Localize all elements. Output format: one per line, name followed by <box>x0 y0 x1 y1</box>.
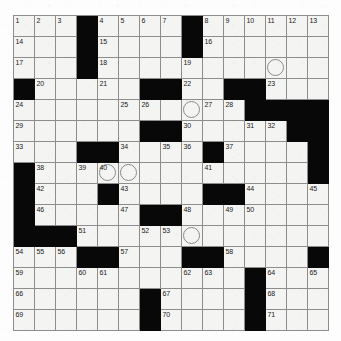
letter-cell[interactable]: 47 <box>119 205 140 226</box>
letter-cell[interactable]: 66 <box>14 289 35 310</box>
letter-cell[interactable] <box>308 226 329 247</box>
letter-cell[interactable]: 50 <box>245 205 266 226</box>
letter-cell[interactable]: 24 <box>14 100 35 121</box>
letter-cell[interactable]: 69 <box>14 310 35 331</box>
letter-cell[interactable]: 13 <box>308 16 329 37</box>
letter-cell[interactable] <box>182 310 203 331</box>
letter-cell[interactable]: 43 <box>119 184 140 205</box>
letter-cell[interactable] <box>287 58 308 79</box>
letter-cell[interactable]: 35 <box>161 142 182 163</box>
letter-cell[interactable]: 67 <box>161 289 182 310</box>
letter-cell[interactable]: 68 <box>266 289 287 310</box>
letter-cell[interactable] <box>203 226 224 247</box>
letter-cell[interactable] <box>35 100 56 121</box>
letter-cell[interactable]: 33 <box>14 142 35 163</box>
letter-cell[interactable] <box>98 121 119 142</box>
letter-cell[interactable] <box>119 226 140 247</box>
letter-cell[interactable] <box>119 289 140 310</box>
letter-cell[interactable] <box>56 163 77 184</box>
letter-cell[interactable]: 56 <box>56 247 77 268</box>
letter-cell[interactable]: 5 <box>119 16 140 37</box>
letter-cell[interactable] <box>140 37 161 58</box>
letter-cell[interactable] <box>224 268 245 289</box>
letter-cell[interactable] <box>56 310 77 331</box>
letter-cell[interactable] <box>182 226 203 247</box>
letter-cell[interactable] <box>56 37 77 58</box>
letter-cell[interactable] <box>35 289 56 310</box>
letter-cell[interactable] <box>119 310 140 331</box>
letter-cell[interactable]: 34 <box>119 142 140 163</box>
letter-cell[interactable] <box>182 100 203 121</box>
letter-cell[interactable]: 31 <box>245 121 266 142</box>
letter-cell[interactable]: 40 <box>98 163 119 184</box>
letter-cell[interactable] <box>287 226 308 247</box>
letter-cell[interactable] <box>35 58 56 79</box>
letter-cell[interactable] <box>203 58 224 79</box>
letter-cell[interactable] <box>203 79 224 100</box>
letter-cell[interactable]: 2 <box>35 16 56 37</box>
letter-cell[interactable]: 61 <box>98 268 119 289</box>
letter-cell[interactable] <box>161 184 182 205</box>
letter-cell[interactable] <box>56 100 77 121</box>
letter-cell[interactable] <box>287 205 308 226</box>
letter-cell[interactable] <box>77 100 98 121</box>
letter-cell[interactable] <box>77 184 98 205</box>
letter-cell[interactable] <box>140 184 161 205</box>
letter-cell[interactable]: 28 <box>224 100 245 121</box>
letter-cell[interactable]: 15 <box>98 37 119 58</box>
letter-cell[interactable]: 45 <box>308 184 329 205</box>
letter-cell[interactable] <box>56 184 77 205</box>
letter-cell[interactable]: 11 <box>266 16 287 37</box>
letter-cell[interactable] <box>287 184 308 205</box>
letter-cell[interactable] <box>203 310 224 331</box>
letter-cell[interactable] <box>245 142 266 163</box>
letter-cell[interactable] <box>224 310 245 331</box>
letter-cell[interactable]: 48 <box>182 205 203 226</box>
letter-cell[interactable] <box>245 37 266 58</box>
letter-cell[interactable] <box>56 79 77 100</box>
letter-cell[interactable]: 16 <box>203 37 224 58</box>
letter-cell[interactable] <box>266 58 287 79</box>
letter-cell[interactable] <box>287 268 308 289</box>
letter-cell[interactable] <box>308 58 329 79</box>
letter-cell[interactable] <box>245 226 266 247</box>
letter-cell[interactable]: 7 <box>161 16 182 37</box>
letter-cell[interactable] <box>287 79 308 100</box>
letter-cell[interactable]: 1 <box>14 16 35 37</box>
letter-cell[interactable]: 42 <box>35 184 56 205</box>
letter-cell[interactable] <box>182 184 203 205</box>
letter-cell[interactable]: 71 <box>266 310 287 331</box>
letter-cell[interactable] <box>266 247 287 268</box>
letter-cell[interactable] <box>98 205 119 226</box>
letter-cell[interactable]: 18 <box>98 58 119 79</box>
letter-cell[interactable] <box>56 205 77 226</box>
letter-cell[interactable] <box>287 289 308 310</box>
letter-cell[interactable]: 64 <box>266 268 287 289</box>
crossword-grid[interactable]: 1234567891011121314151617181920212223242… <box>13 15 329 331</box>
letter-cell[interactable] <box>140 142 161 163</box>
letter-cell[interactable] <box>77 205 98 226</box>
letter-cell[interactable]: 29 <box>14 121 35 142</box>
letter-cell[interactable] <box>308 310 329 331</box>
letter-cell[interactable] <box>119 163 140 184</box>
letter-cell[interactable] <box>182 163 203 184</box>
letter-cell[interactable]: 62 <box>182 268 203 289</box>
letter-cell[interactable] <box>77 79 98 100</box>
letter-cell[interactable] <box>140 58 161 79</box>
letter-cell[interactable]: 8 <box>203 16 224 37</box>
letter-cell[interactable] <box>119 37 140 58</box>
letter-cell[interactable] <box>35 268 56 289</box>
letter-cell[interactable]: 10 <box>245 16 266 37</box>
letter-cell[interactable]: 3 <box>56 16 77 37</box>
letter-cell[interactable]: 38 <box>35 163 56 184</box>
letter-cell[interactable] <box>266 163 287 184</box>
letter-cell[interactable] <box>119 79 140 100</box>
letter-cell[interactable]: 54 <box>14 247 35 268</box>
letter-cell[interactable]: 12 <box>287 16 308 37</box>
letter-cell[interactable] <box>266 142 287 163</box>
letter-cell[interactable]: 20 <box>35 79 56 100</box>
letter-cell[interactable]: 22 <box>182 79 203 100</box>
letter-cell[interactable]: 51 <box>77 226 98 247</box>
letter-cell[interactable] <box>98 100 119 121</box>
letter-cell[interactable] <box>287 247 308 268</box>
